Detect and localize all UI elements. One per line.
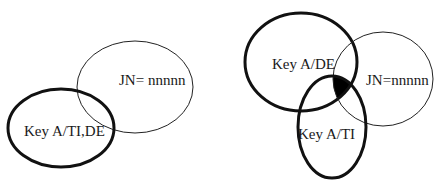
key-ti-label: Key A/TI — [298, 126, 355, 142]
left-venn: JN= nnnnn Key A/TI,DE — [8, 41, 193, 167]
jn-label: JN= nnnnn — [119, 72, 186, 88]
venn-diagrams: JN= nnnnn Key A/TI,DE Key A/DE JN=nnnnn … — [0, 0, 441, 185]
key-ti-de-label: Key A/TI,DE — [24, 123, 105, 139]
right-venn: Key A/DE JN=nnnnn Key A/TI — [245, 13, 433, 178]
jn-label-right: JN=nnnnn — [366, 72, 429, 88]
key-de-label: Key A/DE — [272, 56, 335, 72]
